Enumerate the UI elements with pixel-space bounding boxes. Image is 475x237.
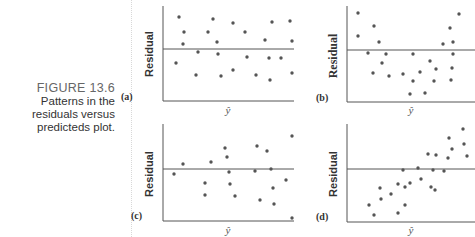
data-point [216,52,219,55]
data-point [384,52,387,55]
data-point [245,55,248,58]
data-point [272,202,275,205]
data-point [206,30,209,33]
data-point [181,162,184,165]
panel-d-xlabel: ŷ [408,224,414,236]
data-point [269,167,272,170]
data-point [372,24,375,27]
data-point [378,186,381,189]
data-point [372,213,375,216]
data-point [203,181,206,184]
data-point [416,166,419,169]
data-point [447,136,450,139]
data-point [366,51,369,54]
panel-d-label: (d) [316,211,328,223]
data-point [461,127,464,130]
data-point [380,61,383,64]
panel-b-ylabel: Residual [326,33,340,78]
data-point [290,71,293,74]
data-point [411,52,414,55]
data-point [181,42,184,45]
data-point [401,168,404,171]
data-point [209,160,212,163]
data-point [288,19,291,22]
data-point [243,30,246,33]
data-point [356,34,359,37]
data-point [442,169,445,172]
panel-b-xlabel: ŷ [408,104,414,116]
data-point [451,40,454,43]
data-point [450,147,453,150]
data-point [419,177,422,180]
panel-c-xlabel: ŷ [225,224,231,236]
panel-c: (c) Residual ŷ [131,124,294,236]
data-point [403,185,406,188]
data-point [387,74,390,77]
data-point [290,39,293,42]
data-point [203,193,206,196]
data-point [233,194,236,197]
data-point [371,71,374,74]
data-point [434,67,437,70]
data-point [231,68,234,71]
data-point [290,216,293,219]
data-point [432,79,435,82]
data-point [253,169,256,172]
panel-a: (a) Residual ŷ [121,6,294,116]
panel-a-ylabel: Residual [143,31,155,77]
panel-c-ylabel: Residual [143,151,155,197]
data-point [401,72,404,75]
panel-a-label: (a) [121,91,133,103]
data-point [271,186,274,189]
data-point [194,73,197,76]
data-point [396,182,399,185]
data-point [462,142,465,145]
data-point [254,73,257,76]
data-point [225,155,228,158]
data-point [268,78,271,81]
data-point [389,192,392,195]
data-point [196,50,199,53]
data-point [227,170,230,173]
panel-c-points [172,134,293,219]
data-point [457,12,460,15]
data-point [267,56,270,59]
data-point [450,66,453,69]
data-point [448,26,451,29]
panel-b-label: (b) [316,92,328,104]
data-point [423,91,426,94]
data-point [408,92,411,95]
data-point [449,78,452,81]
data-point [418,70,421,73]
data-point [367,203,370,206]
panel-d-axes [347,124,475,222]
data-point [211,17,214,20]
data-point [428,59,431,62]
data-point [446,156,449,159]
data-point [433,188,436,191]
data-point [215,40,218,43]
panel-a-axes [163,6,294,101]
data-point [265,149,268,152]
data-point [411,79,414,82]
data-point [451,52,454,55]
data-point [465,154,468,157]
data-point [290,134,293,137]
panel-d: (d) Residual ŷ [316,124,475,236]
data-point [429,185,432,188]
data-point [270,20,273,23]
data-point [172,172,175,175]
panel-a-xlabel: ŷ [225,104,231,116]
data-point [263,38,266,41]
data-point [182,30,185,33]
data-point [177,15,180,18]
data-point [219,74,222,77]
data-point [396,211,399,214]
panel-b-axes [347,6,475,102]
data-point [426,152,429,155]
data-point [231,21,234,24]
data-point [377,40,380,43]
data-point [228,182,231,185]
residual-plots: (a) Residual ŷ (b) Residual ŷ (c) Residu… [0,0,475,237]
data-point [431,168,434,171]
